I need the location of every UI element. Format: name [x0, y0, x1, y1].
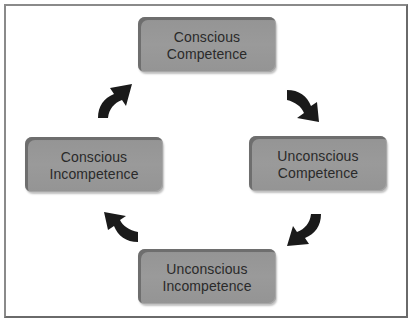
curved-arrow-down-right-icon: [283, 80, 327, 124]
competence-cycle-diagram: Conscious Competence Unconscious Compete…: [0, 0, 414, 324]
curved-arrow-down-left-icon: [281, 208, 325, 252]
node-label-line1: Conscious: [61, 149, 127, 166]
node-unconscious-competence: Unconscious Competence: [249, 136, 387, 191]
node-conscious-competence: Conscious Competence: [138, 17, 276, 72]
node-label-line2: Incompetence: [162, 278, 251, 295]
curved-arrow-up-right-icon: [92, 78, 136, 122]
node-label-line2: Competence: [167, 46, 247, 63]
node-conscious-incompetence: Conscious Incompetence: [25, 137, 163, 192]
node-label-line2: Incompetence: [49, 166, 138, 183]
node-label-line1: Unconscious: [166, 261, 247, 278]
node-label-line1: Conscious: [174, 29, 240, 46]
node-unconscious-incompetence: Unconscious Incompetence: [138, 249, 276, 304]
curved-arrow-up-left-icon: [98, 208, 142, 252]
node-label-line2: Competence: [278, 165, 358, 182]
node-label-line1: Unconscious: [277, 148, 358, 165]
